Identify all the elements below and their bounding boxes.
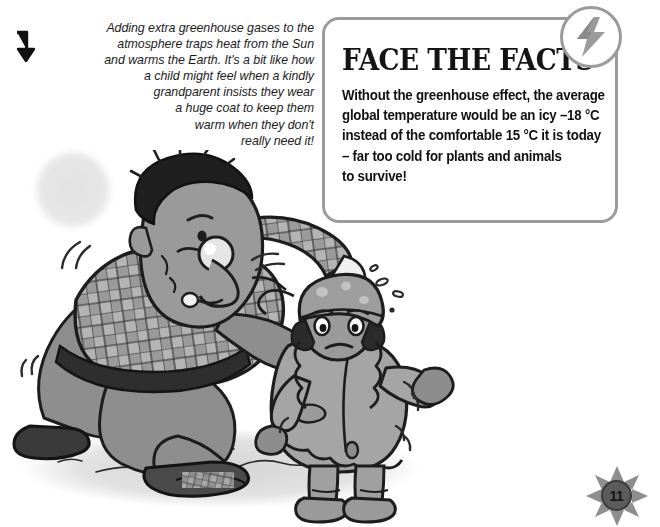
facts-body-line: Without the greenhouse effect, the avera… [342,85,583,105]
lightning-badge [560,6,622,68]
facts-body-line: – far too cold for plants and animals [342,146,583,166]
facts-body-line: global temperature would be an icy –18 °… [342,105,583,125]
caption-line: really need it! [36,133,314,149]
page-canvas: Adding extra greenhouse gases to the atm… [0,0,660,527]
lightning-bolt-icon [575,17,607,57]
facts-body-line: instead of the comfortable 15 °C it is t… [342,125,583,145]
caption-text: Adding extra greenhouse gases to the atm… [36,20,314,149]
caption-line: atmosphere traps heat from the Sun [36,36,314,52]
caption-line: a child might feel when a kindly [36,68,314,84]
caption-line: and warms the Earth. It's a bit like how [36,52,314,68]
caption-line: grandparent insists they wear [36,84,314,100]
page-number: 11 [601,480,632,511]
facts-body-line: to survive! [342,166,583,186]
caption-line: Adding extra greenhouse gases to the [36,20,314,36]
facts-title: FACE THE FACTS [342,44,570,76]
page-number-badge: 11 [586,466,648,526]
caption-line: warm when they don't [36,117,314,133]
caption-line: a huge coat to keep them [36,100,314,116]
facts-body: Without the greenhouse effect, the avera… [342,85,583,186]
